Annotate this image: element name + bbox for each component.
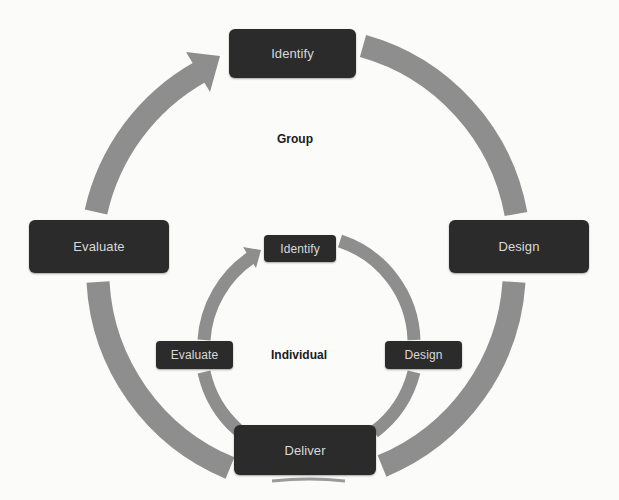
- group-cycle-label: Group: [277, 132, 313, 146]
- outer-design-box: Design: [449, 220, 589, 273]
- deliver-shadow: [272, 479, 345, 481]
- inner-design-box: Design: [385, 341, 462, 369]
- outer-arrow-identify-to-design: [363, 46, 516, 214]
- inner-evaluate-box: Evaluate: [156, 341, 233, 369]
- cycle-diagram: Identify Design Deliver Evaluate Identif…: [0, 0, 619, 500]
- inner-arrow-design-to-deliver: [374, 372, 414, 432]
- inner-arrow-identify-to-design: [340, 241, 414, 340]
- inner-evaluate-label: Evaluate: [171, 348, 219, 362]
- inner-arrow-evaluate-to-identify: [204, 257, 252, 340]
- outer-identify-label: Identify: [271, 46, 314, 61]
- outer-design-label: Design: [498, 239, 539, 254]
- inner-identify-box: Identify: [264, 235, 336, 262]
- outer-evaluate-label: Evaluate: [73, 239, 124, 254]
- outer-identify-box: Identify: [229, 29, 356, 78]
- individual-cycle-label: Individual: [271, 348, 327, 362]
- inner-design-label: Design: [405, 348, 443, 362]
- outer-arrow-design-to-deliver: [382, 282, 514, 466]
- deliver-label: Deliver: [284, 443, 325, 458]
- inner-arrow-deliver-to-evaluate: [204, 372, 238, 430]
- outer-arrow-evaluate-to-identify: [96, 72, 200, 212]
- inner-identify-label: Identify: [280, 242, 320, 256]
- outer-evaluate-box: Evaluate: [29, 220, 169, 273]
- deliver-box: Deliver: [234, 425, 376, 475]
